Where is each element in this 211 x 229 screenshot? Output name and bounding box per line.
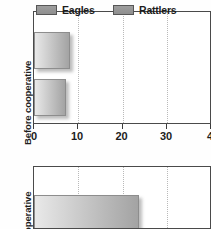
chart-figure: Before cooperative activities were intro… [0, 0, 211, 229]
legend-item-rattlers: Rattlers [113, 4, 177, 16]
chart-panel-before: Before cooperative activities were intro… [0, 0, 211, 150]
x-tick-0 [33, 124, 34, 129]
plot-area-before [33, 11, 211, 124]
x-tick-30 [166, 124, 167, 129]
bar-eagles-before [34, 32, 70, 69]
x-ticklabel-10: 10 [71, 130, 83, 142]
chart-panel-after: operative re introduced [0, 158, 211, 229]
gridline-30 [167, 12, 169, 123]
plot-area-after [33, 166, 211, 229]
x-ticklabel-20: 20 [115, 130, 127, 142]
legend-label-rattlers: Rattlers [139, 4, 177, 16]
y-axis-label-after: operative re introduced [0, 158, 33, 229]
x-tick-10 [77, 124, 78, 129]
legend-swatch-eagles [36, 5, 57, 15]
y-axis-label-before: Before cooperative activities were intro… [0, 0, 33, 150]
gridline-20 [123, 12, 125, 123]
bar-eagles-after [34, 195, 139, 229]
y-axis-label-after-line1: operative [22, 174, 33, 229]
legend-label-eagles: Eagles [62, 4, 95, 16]
x-tick-40 [210, 124, 211, 129]
legend-item-eagles: Eagles [36, 4, 95, 16]
x-ticklabel-0: 0 [31, 130, 37, 142]
gridline-30-after [167, 167, 169, 228]
y-axis-label-before-line1: Before cooperative [22, 31, 33, 145]
x-ticklabel-30: 30 [160, 130, 172, 142]
legend-swatch-rattlers [113, 5, 134, 15]
x-axis-before: 0 10 20 30 40 [33, 124, 211, 148]
bar-rattlers-before [34, 79, 66, 116]
x-tick-20 [122, 124, 123, 129]
x-ticklabel-40: 40 [207, 130, 211, 142]
gridline-10 [78, 12, 80, 123]
